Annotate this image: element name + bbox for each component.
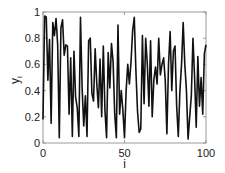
y-axis-label: yi bbox=[8, 76, 24, 84]
y-tick-label: 1 bbox=[34, 6, 40, 18]
y-tick-label: 0.6 bbox=[25, 58, 40, 70]
y-tick-label: 0.2 bbox=[25, 111, 40, 123]
y-tick-label: 0.4 bbox=[25, 85, 40, 97]
x-tick-label: 100 bbox=[197, 147, 215, 159]
line-chart: 00.20.40.60.81 050100 yi i bbox=[0, 0, 225, 173]
y-tick-label: 0.8 bbox=[25, 32, 40, 44]
x-tick-label: 0 bbox=[40, 147, 46, 159]
x-axis-label: i bbox=[123, 157, 126, 171]
